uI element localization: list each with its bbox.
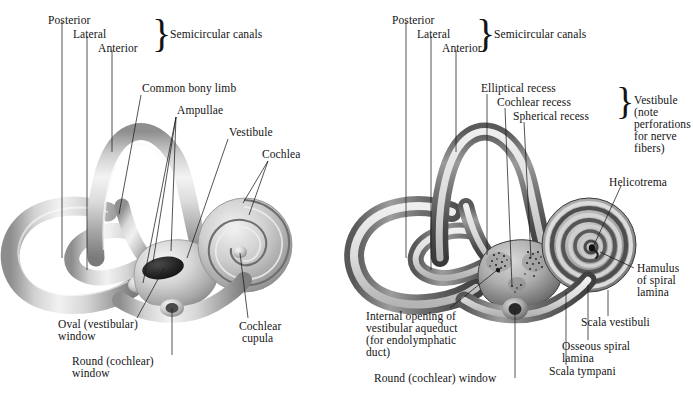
anatomy-figure: Posterior Lateral Anterior } Semicircula… <box>0 0 693 397</box>
right-label-round-window: Round (cochlear) window <box>374 372 496 384</box>
right-label-spherical-recess: Spherical recess <box>513 110 589 122</box>
right-label-elliptical-recess: Elliptical recess <box>481 82 556 94</box>
figure-artwork <box>0 0 693 397</box>
right-label-osseous-spiral-lamina-line2: lamina <box>562 352 594 364</box>
left-labyrinth-artwork <box>10 22 292 355</box>
right-label-semicircular-canals: Semicircular canals <box>494 28 586 40</box>
right-label-vestibule-line5: fibers) <box>634 142 665 154</box>
right-label-internal-opening-line4: duct) <box>366 346 390 358</box>
left-label-cochlea: Cochlea <box>262 148 300 160</box>
left-label-posterior: Posterior <box>48 14 90 26</box>
spherical-recess <box>522 252 546 272</box>
right-label-cochlear-recess: Cochlear recess <box>497 96 571 108</box>
anterior-canal-lumen <box>439 131 544 258</box>
left-label-semicircular-canals: Semicircular canals <box>170 28 262 40</box>
right-label-vestibule-line3: perforations <box>634 118 691 130</box>
right-label-lateral: Lateral <box>417 28 450 40</box>
right-label-helicotrema: Helicotrema <box>609 176 667 188</box>
left-label-common-bony-limb: Common bony limb <box>142 82 236 94</box>
left-label-anterior: Anterior <box>98 42 138 54</box>
left-label-cochlear-cupula-line2: cupula <box>242 332 273 344</box>
right-label-hamulus-line1: Hamulus <box>637 262 679 274</box>
left-label-round-window-line2: window <box>72 367 110 379</box>
cochlear-cupula <box>233 246 247 258</box>
left-label-lateral: Lateral <box>73 28 106 40</box>
left-label-oval-window-line1: Oval (vestibular) <box>58 318 138 330</box>
right-brace-vestibule: } <box>616 82 634 120</box>
left-label-round-window-line1: Round (cochlear) <box>72 355 154 367</box>
internal-opening-vestibular-aqueduct <box>496 268 500 272</box>
right-label-scala-tympani: Scala tympani <box>549 365 616 377</box>
anterior-canal <box>95 131 200 258</box>
right-label-internal-opening-line2: vestibular aqueduct <box>366 322 458 334</box>
left-brace-semicircular-canals: } <box>152 14 171 54</box>
right-label-vestibule-line1: Vestibule <box>634 94 678 106</box>
right-label-vestibule-line4: for nerve <box>634 130 677 142</box>
right-brace-semicircular-canals: } <box>476 14 495 54</box>
right-label-hamulus-line2: of spiral <box>637 274 676 286</box>
left-label-cochlear-cupula-line1: Cochlear <box>239 320 281 332</box>
right-label-scala-vestibuli: Scala vestibuli <box>581 316 650 328</box>
cochlear-recess <box>508 277 526 291</box>
right-label-posterior: Posterior <box>392 14 434 26</box>
left-label-oval-window-line2: window <box>58 330 96 342</box>
right-label-hamulus-line3: lamina <box>637 286 669 298</box>
right-label-internal-opening-line3: (for endolymphatic <box>366 334 456 346</box>
right-label-osseous-spiral-lamina-line1: Osseous spiral <box>562 340 630 352</box>
left-label-vestibule: Vestibule <box>229 126 273 138</box>
left-label-ampullae: Ampullae <box>177 104 223 116</box>
right-label-internal-opening-line1: Internal opening of <box>366 310 456 322</box>
right-label-vestibule-line2: (note <box>634 106 658 118</box>
